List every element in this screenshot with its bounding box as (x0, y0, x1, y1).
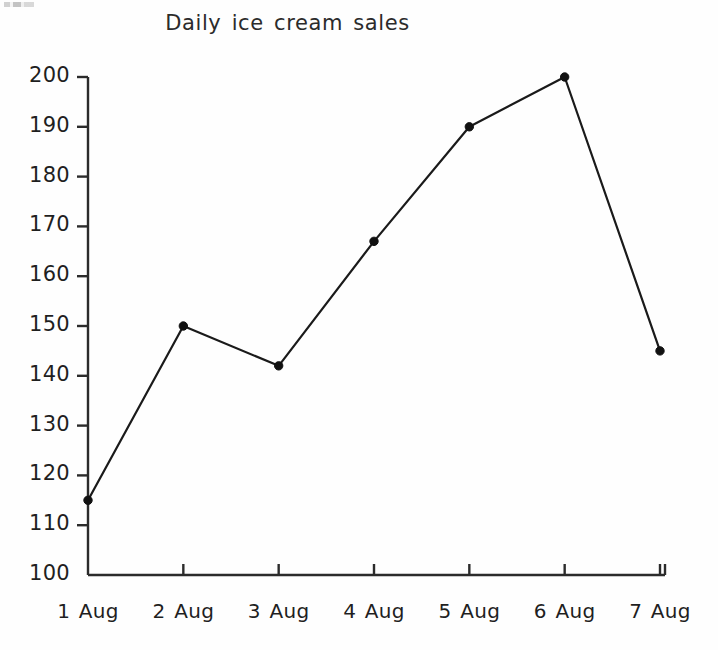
data-line-series (88, 77, 660, 500)
y-tick-label: 190 (8, 113, 70, 137)
x-tick-label: 1 Aug (33, 599, 143, 623)
data-point-marker-4 (370, 237, 378, 245)
data-point-marker-7 (656, 347, 664, 355)
y-tick-label: 140 (8, 362, 70, 386)
data-point-marker-2 (179, 322, 187, 330)
y-tick-label: 110 (8, 511, 70, 535)
axis-lines (88, 77, 665, 575)
x-tick-label: 4 Aug (319, 599, 429, 623)
y-tick-label: 160 (8, 262, 70, 286)
plot-area (0, 0, 718, 650)
x-tick-label: 2 Aug (128, 599, 238, 623)
data-point-marker-6 (560, 73, 568, 81)
series-line (88, 77, 660, 500)
x-tick-label: 5 Aug (414, 599, 524, 623)
chart-figure: Daily ice cream sales 100110120130140150… (0, 0, 718, 650)
data-point-marker-1 (84, 496, 92, 504)
y-tick-label: 200 (8, 63, 70, 87)
y-tick-label: 150 (8, 312, 70, 336)
data-point-marker-5 (465, 123, 473, 131)
y-tick-label: 170 (8, 212, 70, 236)
y-tick-label: 100 (8, 561, 70, 585)
x-tick-label: 7 Aug (605, 599, 715, 623)
y-tick-label: 120 (8, 461, 70, 485)
data-point-marker-3 (274, 362, 282, 370)
x-tick-label: 3 Aug (224, 599, 334, 623)
data-point-markers (84, 73, 664, 505)
x-axis-ticks (183, 564, 660, 575)
x-tick-label: 6 Aug (510, 599, 620, 623)
y-tick-label: 130 (8, 412, 70, 436)
y-tick-label: 180 (8, 163, 70, 187)
y-axis-ticks (77, 77, 88, 525)
